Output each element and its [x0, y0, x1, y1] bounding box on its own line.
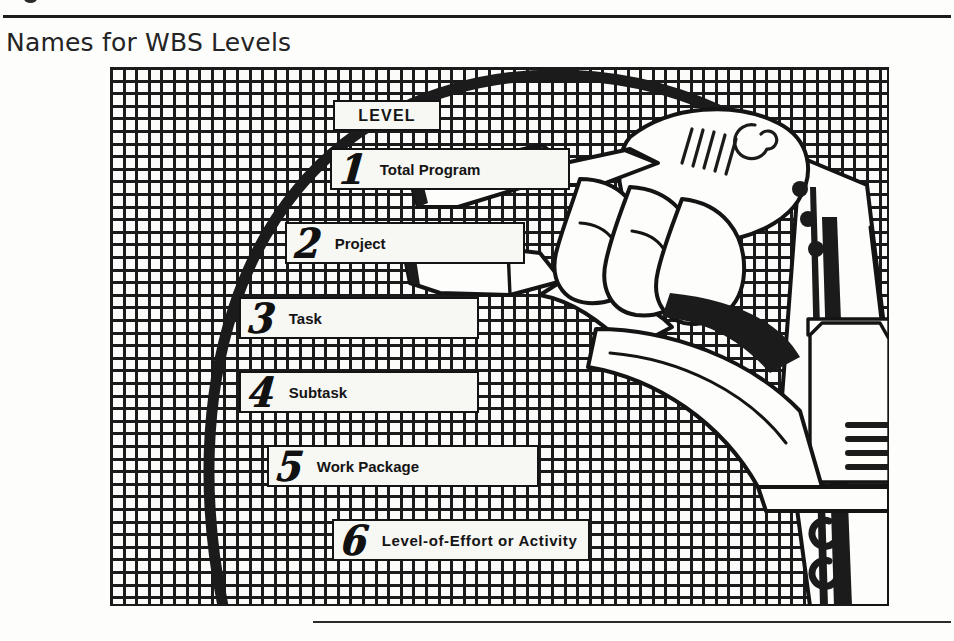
illustration-frame: LEVEL 1 Total Program 2 Project 3 Task 4… [110, 67, 889, 606]
level-box-2: 2 Project [285, 222, 525, 264]
clipped-glyph-artifact [24, 0, 37, 3]
level-box-3: 3 Task [239, 297, 479, 339]
figure-page: Names for WBS Levels [0, 0, 954, 641]
level-label-2: Project [335, 235, 386, 252]
level-number-5: 5 [275, 445, 305, 486]
level-label-3: Task [289, 310, 322, 327]
level-number-6: 6 [340, 519, 370, 560]
level-number-3: 3 [247, 297, 277, 338]
level-header-box: LEVEL [333, 100, 441, 131]
page-title: Names for WBS Levels [6, 28, 291, 57]
level-box-1: 1 Total Program [330, 148, 570, 190]
level-label-5: Work Package [317, 458, 419, 475]
level-label-4: Subtask [289, 384, 347, 401]
level-box-6: 6 Level-of-Effort or Activity [332, 519, 590, 561]
level-box-5: 5 Work Package [267, 445, 539, 487]
bottom-horizontal-rule [313, 621, 951, 623]
level-label-6: Level-of-Effort or Activity [382, 532, 578, 549]
top-horizontal-rule [3, 15, 951, 18]
level-number-2: 2 [293, 222, 323, 263]
level-header-label: LEVEL [335, 107, 439, 125]
level-number-4: 4 [247, 371, 277, 412]
level-number-1: 1 [338, 148, 368, 189]
level-label-1: Total Program [380, 161, 481, 178]
level-box-4: 4 Subtask [239, 371, 479, 413]
